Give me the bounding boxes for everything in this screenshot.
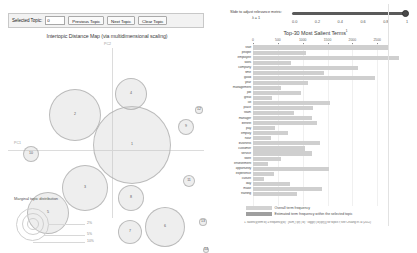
term-label[interactable]: hour bbox=[224, 137, 253, 140]
relevance-slider[interactable] bbox=[292, 12, 406, 15]
bar-overall[interactable] bbox=[253, 45, 389, 49]
legend-circle-2 bbox=[27, 218, 39, 230]
term-label[interactable]: benefit bbox=[224, 122, 253, 125]
bar-overall[interactable] bbox=[253, 51, 306, 55]
bar-overall[interactable] bbox=[253, 146, 305, 150]
term-label[interactable]: customer bbox=[224, 147, 253, 150]
topic-toolbar: Selected Topic: Previous Topic Next Topi… bbox=[8, 13, 204, 28]
term-label[interactable]: place bbox=[224, 106, 253, 109]
bar-overall[interactable] bbox=[253, 167, 329, 171]
bar-overall[interactable] bbox=[253, 111, 294, 115]
term-label[interactable]: team bbox=[224, 111, 253, 114]
slider-track[interactable] bbox=[292, 12, 406, 15]
clear-topic-button[interactable]: Clear Topic bbox=[138, 16, 167, 26]
bar-overall[interactable] bbox=[253, 192, 297, 196]
bar-overall[interactable] bbox=[253, 136, 271, 140]
topic-bubble-label: 9 bbox=[185, 125, 187, 129]
topic-bubble[interactable]: 8 bbox=[118, 185, 144, 211]
slider-handle[interactable] bbox=[402, 10, 409, 17]
topic-bubble[interactable]: 12 bbox=[195, 106, 203, 114]
x-tick-label: 0 bbox=[252, 38, 254, 42]
next-topic-button[interactable]: Next Topic bbox=[107, 16, 135, 26]
x-tick-label: 1000 bbox=[299, 38, 307, 42]
term-label[interactable]: people bbox=[224, 51, 253, 54]
term-label[interactable]: opportunity bbox=[224, 167, 253, 170]
term-label[interactable]: environment bbox=[224, 162, 253, 165]
slider-tick: 0.6 bbox=[360, 20, 365, 24]
bar-track bbox=[253, 182, 402, 186]
bar-overall[interactable] bbox=[253, 172, 274, 176]
bar-row[interactable]: training bbox=[224, 191, 402, 196]
bar-overall[interactable] bbox=[253, 182, 290, 186]
topic-bubble[interactable]: 6 bbox=[145, 207, 185, 247]
term-label[interactable]: store bbox=[224, 157, 253, 160]
legend-item-overall: Overall term frequency bbox=[246, 206, 406, 210]
bar-overall[interactable] bbox=[253, 151, 312, 155]
bar-chart-title-text: Top-30 Most Salient Terms bbox=[283, 30, 345, 36]
bar-overall[interactable] bbox=[253, 141, 320, 145]
bar-track bbox=[253, 126, 402, 130]
topic-bubble[interactable]: 13 bbox=[199, 218, 207, 226]
term-label[interactable]: job bbox=[224, 91, 253, 94]
term-label[interactable]: experience bbox=[224, 172, 253, 175]
bar-overall[interactable] bbox=[253, 76, 375, 80]
term-label[interactable]: pay bbox=[224, 127, 253, 130]
term-label[interactable]: employ bbox=[224, 132, 253, 135]
right-panel: Slide to adjust relevance metric: λ = 1 … bbox=[214, 0, 417, 251]
bar-overall[interactable] bbox=[253, 96, 272, 100]
term-label[interactable]: company bbox=[224, 66, 253, 69]
term-label[interactable]: day bbox=[224, 182, 253, 185]
bar-overall[interactable] bbox=[253, 81, 308, 85]
topic-bubble[interactable]: 2 bbox=[49, 89, 101, 141]
topic-bubble[interactable]: 10 bbox=[23, 146, 39, 162]
topic-bubble-label: 3 bbox=[84, 186, 86, 190]
bar-overall[interactable] bbox=[253, 126, 275, 130]
bar-overall[interactable] bbox=[253, 157, 281, 161]
previous-topic-button[interactable]: Previous Topic bbox=[68, 16, 104, 26]
bar-overall[interactable] bbox=[253, 61, 291, 65]
topic-bubble[interactable]: 9 bbox=[178, 119, 194, 135]
term-label[interactable]: great bbox=[224, 96, 253, 99]
bar-track bbox=[253, 45, 402, 49]
term-label[interactable]: time bbox=[224, 71, 253, 74]
topic-bubble[interactable]: 4 bbox=[115, 78, 147, 110]
term-label[interactable]: culture bbox=[224, 177, 253, 180]
selected-topic-input[interactable] bbox=[45, 16, 65, 25]
term-label[interactable]: management bbox=[224, 86, 253, 89]
bar-overall[interactable] bbox=[253, 56, 399, 60]
topic-bubble[interactable]: 7 bbox=[118, 220, 142, 244]
bar-overall[interactable] bbox=[253, 71, 324, 75]
bar-overall[interactable] bbox=[253, 162, 268, 166]
saliency-footnote: 1. saliency(term w) = frequency(w) * [su… bbox=[244, 221, 416, 225]
legend-swatch-overall bbox=[246, 206, 272, 210]
term-label[interactable]: make bbox=[224, 187, 253, 190]
term-label[interactable]: year bbox=[224, 81, 253, 84]
bar-overall[interactable] bbox=[253, 131, 288, 135]
term-label[interactable]: employee bbox=[224, 56, 253, 59]
bar-overall[interactable] bbox=[253, 66, 358, 70]
bar-overall[interactable] bbox=[253, 106, 313, 110]
topic-bubble-label: 7 bbox=[129, 230, 131, 234]
term-label[interactable]: staff bbox=[224, 46, 253, 49]
bar-overall[interactable] bbox=[253, 116, 312, 120]
bar-overall[interactable] bbox=[253, 101, 330, 105]
term-label[interactable]: training bbox=[224, 192, 253, 195]
topic-bubble[interactable]: 11 bbox=[183, 175, 195, 187]
bar-overall[interactable] bbox=[253, 187, 322, 191]
term-label[interactable]: lot bbox=[224, 101, 253, 104]
bar-overall[interactable] bbox=[253, 121, 317, 125]
bar-overall[interactable] bbox=[253, 177, 264, 181]
legend-swatch-estimated bbox=[246, 212, 272, 216]
term-label[interactable]: service bbox=[224, 152, 253, 155]
term-label[interactable]: manager bbox=[224, 117, 253, 120]
topic-bubble[interactable]: 14 bbox=[203, 247, 209, 253]
relevance-slider-row: Slide to adjust relevance metric: λ = 1 … bbox=[224, 10, 412, 28]
bar-track bbox=[253, 106, 402, 110]
topic-bubble[interactable]: 1 bbox=[93, 106, 171, 184]
bar-overall[interactable] bbox=[253, 86, 281, 90]
term-label[interactable]: work bbox=[224, 61, 253, 64]
term-label[interactable]: good bbox=[224, 76, 253, 79]
bar-overall[interactable] bbox=[253, 91, 301, 95]
term-label[interactable]: business bbox=[224, 142, 253, 145]
